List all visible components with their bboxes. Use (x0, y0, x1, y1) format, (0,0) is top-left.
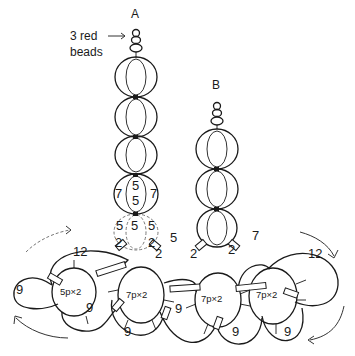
arrow-bottom-right (310, 306, 344, 340)
rosette-label: 7p×2 (201, 293, 222, 304)
count-label: 2 (228, 242, 235, 257)
rosette-label: 7p×2 (256, 289, 277, 300)
beading-diagram: A B 3 red beads 7 7 5 5 5 5 5 2 2 5 2 2 … (0, 0, 355, 356)
arrow-top-left (26, 230, 70, 252)
count-label: 5 (170, 230, 177, 245)
count-label: 9 (284, 324, 291, 339)
rosette-label: 5p×2 (60, 286, 81, 297)
red-bead-3 (130, 44, 142, 52)
count-label: 9 (16, 282, 23, 297)
red-bead-2 (132, 37, 141, 44)
arrow-bottom-left (16, 318, 68, 338)
count-label: 5 (132, 178, 139, 193)
count-label: 12 (73, 244, 87, 259)
strand-b (196, 103, 238, 248)
count-label: 5 (148, 218, 155, 233)
count-label: 9 (124, 324, 131, 339)
count-label: 7 (115, 186, 122, 201)
rosette-label: 7p×2 (126, 289, 147, 300)
note-line-1: 3 red (70, 29, 97, 43)
count-label: 9 (232, 324, 239, 339)
count-label: 7 (252, 228, 259, 243)
count-label: 9 (175, 301, 182, 316)
count-label: 2 (155, 246, 162, 261)
count-label: 7 (150, 186, 157, 201)
count-label: 12 (308, 246, 322, 261)
strand-b-label: B (212, 78, 220, 92)
count-label: 5 (132, 193, 139, 208)
red-bead-1 (133, 30, 140, 37)
count-label: 2 (115, 235, 122, 250)
count-label: 9 (86, 300, 93, 315)
hatched-bead-bar (96, 262, 126, 277)
count-label: 5 (116, 218, 123, 233)
count-label: 2 (190, 246, 197, 261)
strand-a-label: A (131, 7, 139, 21)
note-line-2: beads (70, 45, 103, 59)
strand-a (114, 30, 158, 251)
count-label: 5 (131, 218, 138, 233)
